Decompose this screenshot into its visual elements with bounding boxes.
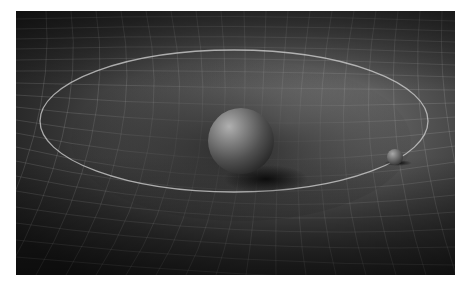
large-sphere-mass [208,108,274,174]
small-sphere-orbiting-body [387,149,403,165]
gravity-well-image [16,11,455,275]
spacetime-illustration [16,11,455,275]
